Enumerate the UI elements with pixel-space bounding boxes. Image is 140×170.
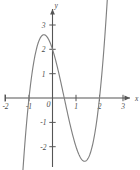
x-tick-label--2: -2 [2,102,8,111]
x-tick-label-1: 1 [74,102,78,111]
y-axis-arrowhead [50,9,55,15]
y-tick-label--2: -2 [40,143,46,152]
y-tick-label-1: 1 [42,70,46,79]
x-tick-label-3: 3 [120,102,125,111]
y-tick-label-3: 3 [41,21,46,30]
y-tick-label-2: 2 [42,45,46,54]
y-axis [50,9,55,167]
cubic-curve [21,0,109,170]
x-tick-labels: -2 -1 1 2 3 [2,102,125,111]
y-tick-labels: 3 2 1 -1 -2 [40,21,46,152]
graph-figure: -2 -1 1 2 3 3 2 1 -1 -2 0 y x [0,0,140,170]
x-axis-label: x [134,94,139,103]
y-axis-label: y [54,1,59,10]
origin-label: 0 [47,100,51,109]
cartesian-plot: -2 -1 1 2 3 3 2 1 -1 -2 0 y x [0,0,140,170]
x-axis [5,95,130,102]
x-axis-arrowhead [125,96,131,101]
y-tick-label--1: -1 [40,118,46,127]
